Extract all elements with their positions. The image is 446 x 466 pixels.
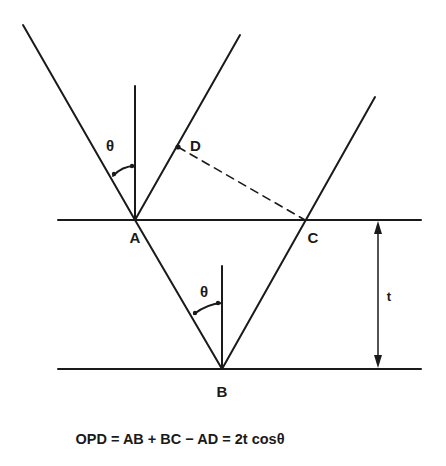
incident-ray [23, 25, 135, 220]
label-b: B [217, 383, 228, 400]
thickness-arrow-down [374, 355, 382, 368]
refracted-ray-ab [135, 220, 222, 369]
label-a: A [130, 229, 141, 246]
reflected-ray-a [135, 35, 240, 220]
label-c: C [308, 229, 319, 246]
label-t: t [387, 289, 392, 304]
label-theta-bottom: θ [200, 283, 208, 300]
dashed-dc-line [178, 147, 305, 220]
point-d-marker [175, 144, 180, 149]
label-theta-top: θ [106, 137, 114, 154]
thin-film-diagram: θ D A C θ t B OPD = AB + BC − AD = 2t co… [0, 0, 446, 466]
opd-equation: OPD = AB + BC − AD = 2t cosθ [75, 431, 284, 447]
label-d: D [190, 137, 201, 154]
thickness-arrow-up [374, 221, 382, 234]
ray-bc-emergent [222, 97, 375, 369]
